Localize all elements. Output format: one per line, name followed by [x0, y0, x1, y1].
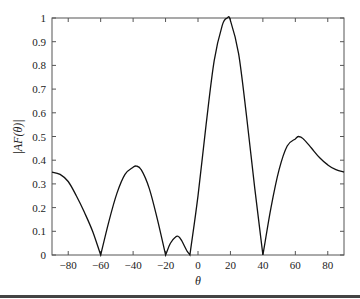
y-tick-label: 0.1 — [32, 225, 46, 237]
x-tick-label: −20 — [157, 259, 175, 271]
y-axis-label: |AF(θ)| — [11, 119, 25, 154]
x-tick-label: 20 — [225, 259, 237, 271]
y-tick-label: 0.5 — [32, 131, 46, 143]
y-tick-label: 0 — [41, 249, 47, 261]
x-tick-label: 80 — [322, 259, 334, 271]
x-tick-label: 40 — [257, 259, 269, 271]
x-tick-label: −60 — [92, 259, 110, 271]
x-tick-label: 0 — [195, 259, 201, 271]
x-tick-label: 60 — [290, 259, 302, 271]
x-tick-label: −80 — [60, 259, 78, 271]
chart: −80−60−40−20020406080 00.10.20.30.40.50.… — [0, 0, 360, 299]
y-tick-label: 0.6 — [32, 107, 46, 119]
array-factor-curve — [52, 17, 344, 255]
y-tick-label: 0.9 — [32, 36, 46, 48]
bottom-rule — [0, 295, 360, 298]
y-tick-label: 1 — [41, 12, 47, 24]
y-tick-label: 0.2 — [32, 202, 46, 214]
x-axis-ticks: −80−60−40−20020406080 — [60, 18, 334, 271]
y-tick-label: 0.4 — [32, 154, 46, 166]
x-tick-label: −40 — [125, 259, 143, 271]
y-tick-label: 0.3 — [32, 178, 46, 190]
x-axis-label: θ — [195, 274, 201, 288]
y-tick-label: 0.7 — [32, 83, 46, 95]
y-tick-label: 0.8 — [32, 59, 46, 71]
